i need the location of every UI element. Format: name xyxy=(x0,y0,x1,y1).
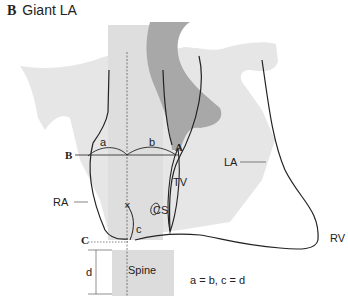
equation: a = b, c = d xyxy=(190,274,245,286)
label-b: b xyxy=(149,136,155,148)
label-point-A: A xyxy=(175,141,183,153)
label-LA: LA xyxy=(224,156,238,168)
label-d: d xyxy=(86,266,92,278)
label-point-C: C xyxy=(81,234,89,246)
label-spine: Spine xyxy=(128,264,156,276)
label-CS: CS xyxy=(153,204,168,216)
label-TV: TV xyxy=(173,176,188,188)
label-a: a xyxy=(100,136,107,148)
x-mark: × xyxy=(124,199,130,211)
heart-diagram: × a b A B C TV CS RA LA RV c d Spine a =… xyxy=(0,0,348,297)
label-RV: RV xyxy=(330,232,346,244)
label-c: c xyxy=(136,223,142,235)
label-RA: RA xyxy=(53,196,69,208)
label-point-B: B xyxy=(65,149,73,161)
